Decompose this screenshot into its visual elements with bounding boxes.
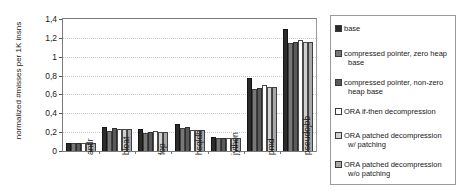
legend-label: ORA patched decompressionw/o patching	[344, 160, 442, 178]
legend-label: ORA if-then decompression	[344, 107, 436, 116]
y-tick-mark	[59, 76, 62, 77]
legend-swatch-icon	[335, 25, 342, 32]
x-tick-label: bloat	[121, 137, 131, 155]
legend-swatch-icon	[335, 132, 342, 139]
x-tick-mark	[135, 151, 136, 154]
bar-chart-figure: normalized #misses per 1K insns 00,20,40…	[0, 0, 462, 192]
x-tick-mark	[99, 151, 100, 154]
bar-group-antlr	[66, 19, 96, 151]
legend-label-continuation: base	[344, 58, 447, 67]
legend-label: compressed pointer, zero heapbase	[344, 49, 447, 67]
bar-group-fop	[138, 19, 168, 151]
y-tick-label: 0,6	[17, 89, 57, 99]
x-tick-label: jython	[230, 132, 240, 155]
legend-label-continuation: heap base	[344, 87, 443, 96]
y-tick-mark	[59, 38, 62, 39]
legend-label: ORA patched decompressionw/ patching	[344, 131, 442, 149]
x-tick-label: hsqldb	[194, 130, 204, 155]
y-tick-mark	[59, 19, 62, 20]
legend-item[interactable]: ORA if-then decompression	[335, 107, 455, 116]
legend-swatch-icon	[335, 161, 342, 168]
legend-label: compressed pointer, non-zeroheap base	[344, 78, 443, 96]
legend-label: base	[344, 24, 360, 33]
legend-item[interactable]: compressed pointer, zero heapbase	[335, 49, 455, 67]
y-tick-mark	[59, 94, 62, 95]
y-tick-label: 1,4	[17, 14, 57, 24]
x-tick-label: pseudojbb	[302, 116, 312, 155]
x-tick-mark	[171, 151, 172, 154]
x-tick-mark	[208, 151, 209, 154]
legend-label-continuation: w/o patching	[344, 169, 442, 178]
y-tick-mark	[59, 113, 62, 114]
legend-swatch-icon	[335, 79, 342, 86]
legend-swatch-icon	[335, 50, 342, 57]
chart-legend: basecompressed pointer, zero heapbasecom…	[330, 15, 456, 185]
bars-layer	[63, 19, 316, 151]
y-tick-mark	[59, 151, 62, 152]
x-tick-mark	[280, 151, 281, 154]
y-tick-label: 0,8	[17, 71, 57, 81]
y-tick-label: 0	[17, 146, 57, 156]
x-tick-label: pmd	[266, 138, 276, 155]
x-tick-mark	[244, 151, 245, 154]
legend-swatch-icon	[335, 108, 342, 115]
legend-item[interactable]: ORA patched decompressionw/ patching	[335, 131, 455, 149]
legend-item[interactable]: base	[335, 24, 455, 33]
x-tick-label: fop	[157, 143, 167, 155]
bar-group-pmd	[247, 19, 277, 151]
bar-group-bloat	[102, 19, 132, 151]
y-tick-mark	[59, 132, 62, 133]
y-tick-label: 1	[17, 52, 57, 62]
y-tick-mark	[59, 57, 62, 58]
y-tick-label: 0,2	[17, 127, 57, 137]
x-tick-label: antlr	[85, 138, 95, 155]
legend-label-continuation: w/ patching	[344, 140, 442, 149]
y-tick-label: 0,4	[17, 108, 57, 118]
legend-item[interactable]: compressed pointer, non-zeroheap base	[335, 78, 455, 96]
legend-item[interactable]: ORA patched decompressionw/o patching	[335, 160, 455, 178]
y-tick-label: 1,2	[17, 33, 57, 43]
